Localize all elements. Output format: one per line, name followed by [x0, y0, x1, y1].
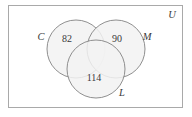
set-label-l: L	[118, 87, 125, 98]
set-label-c: C	[37, 31, 45, 42]
set-label-m: M	[142, 31, 153, 42]
venn-diagram-svg: 82 90 114 C M L U	[0, 0, 192, 117]
venn-diagram-figure: 82 90 114 C M L U	[0, 0, 192, 117]
region-count-m-only: 90	[112, 33, 122, 44]
region-count-c-only: 82	[62, 33, 72, 44]
set-label-universe: U	[168, 9, 177, 20]
region-count-l-only: 114	[87, 72, 102, 83]
circle-set-l	[67, 40, 125, 98]
